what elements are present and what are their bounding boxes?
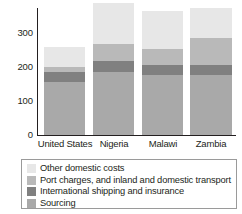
legend-swatch-icon [27, 187, 36, 196]
stacked-bar-chart: 300 200 100 0 United States Nigeria Mala… [0, 0, 242, 214]
bar-segment [142, 75, 183, 136]
bar-segment [190, 8, 232, 39]
bar-stack [93, 3, 134, 135]
legend-label: Other domestic costs [40, 163, 124, 174]
bar-group-zambia [190, 8, 232, 135]
legend-item-sourcing: Sourcing [27, 198, 236, 209]
bar-group-nigeria [93, 8, 134, 135]
y-tick-0: 0 [28, 130, 33, 140]
bar-group-malawi [142, 8, 183, 135]
legend-label: International shipping and insurance [40, 186, 184, 197]
bar-segment [142, 11, 183, 49]
legend-item-other-domestic-costs: Other domestic costs [27, 163, 236, 174]
bar-segment [142, 65, 183, 75]
bar-segment [93, 44, 134, 62]
bar-stack [44, 47, 85, 135]
chart-legend: Other domestic costs Port charges, and i… [21, 159, 237, 209]
legend-swatch-icon [27, 176, 36, 185]
x-tick-zambia: Zambia [180, 138, 242, 150]
x-axis-line [37, 135, 236, 136]
y-tick-200: 200 [17, 62, 33, 72]
bar-group-united-states [44, 8, 85, 135]
bar-segment [142, 49, 183, 64]
y-axis: 300 200 100 0 [0, 8, 36, 136]
y-tick-300: 300 [17, 28, 33, 38]
legend-label: Port charges, and inland and domestic tr… [40, 175, 231, 186]
bar-segment [93, 72, 134, 135]
legend-item-port-charges: Port charges, and inland and domestic tr… [27, 175, 236, 186]
x-axis: United States Nigeria Malawi Zambia [38, 138, 236, 152]
legend-swatch-icon [27, 199, 36, 208]
bar-stack [190, 8, 232, 135]
legend-label: Sourcing [40, 198, 76, 209]
legend-item-international-shipping: International shipping and insurance [27, 186, 236, 197]
bar-segment [44, 67, 85, 72]
bar-segment [44, 72, 85, 82]
bar-segment [190, 75, 232, 136]
bar-segment [190, 65, 232, 75]
bar-segment [44, 47, 85, 67]
y-tick-100: 100 [17, 96, 33, 106]
bar-segment [190, 38, 232, 65]
bars-layer [38, 8, 236, 135]
bar-stack [142, 11, 183, 135]
bar-segment [93, 61, 134, 72]
legend-swatch-icon [27, 164, 36, 173]
bar-segment [44, 82, 85, 135]
bar-segment [93, 3, 134, 44]
